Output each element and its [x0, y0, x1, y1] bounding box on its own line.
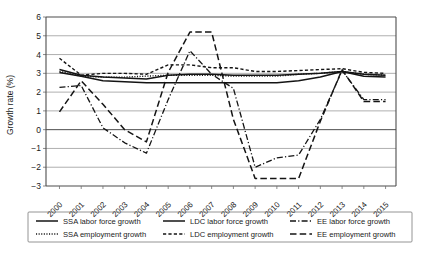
chart-figure: Growth rate (%) 6543210−1−2−3 2000200120… — [0, 0, 439, 260]
y-axis-tick-label: −2 — [31, 162, 41, 172]
legend-label: EE labor force growth — [317, 217, 390, 226]
legend-label: SSA labor force growth — [63, 217, 141, 226]
y-axis-tick-label: 5 — [36, 31, 41, 41]
y-axis-tick-label: 6 — [36, 12, 41, 22]
legend-label: LDC employment growth — [190, 230, 274, 239]
y-axis-tick-label: 0 — [36, 125, 41, 135]
y-axis-tick-label: −3 — [31, 181, 41, 191]
y-axis-title: Growth rate (%) — [5, 75, 15, 135]
y-axis-tick-label: 2 — [36, 87, 41, 97]
legend-label: SSA employment growth — [63, 230, 146, 239]
legend-label: LDC labor force growth — [190, 217, 268, 226]
y-axis-tick-label: 3 — [36, 68, 41, 78]
y-axis-tick-label: 4 — [36, 50, 41, 60]
growth-rate-line-chart: Growth rate (%) 6543210−1−2−3 2000200120… — [0, 0, 439, 260]
y-axis-tick-label: −1 — [31, 143, 41, 153]
y-axis-tick-label: 1 — [36, 106, 41, 116]
legend-label: EE employment growth — [317, 230, 396, 239]
